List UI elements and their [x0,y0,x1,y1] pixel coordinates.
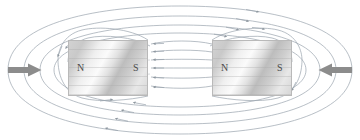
gap-field-lines [151,41,212,88]
right-bar-magnet[interactable]: N S [212,40,292,96]
right-magnet-north-label: N [221,63,229,73]
right-force-arrow-icon [318,63,352,77]
left-magnet-south-label: S [133,63,139,73]
gap-field-arrowheads [154,43,164,87]
field-loop-outer-1-arrow [246,10,258,12]
field-loop-outer-4-arrow-b [134,103,146,105]
left-force-arrow-icon [8,63,42,77]
left-bar-magnet[interactable]: N S [68,40,148,96]
magnetic-field-diagram: N S N S [0,0,360,140]
outer-field-loops [8,6,352,134]
gap-arrow-5 [154,78,164,79]
left-magnet-north-label: N [77,63,85,73]
field-loop-left-arrow-a [58,46,62,56]
field-lines-layer [0,0,360,140]
gap-arrow-6 [154,87,164,88]
right-magnet-south-label: S [277,63,283,73]
